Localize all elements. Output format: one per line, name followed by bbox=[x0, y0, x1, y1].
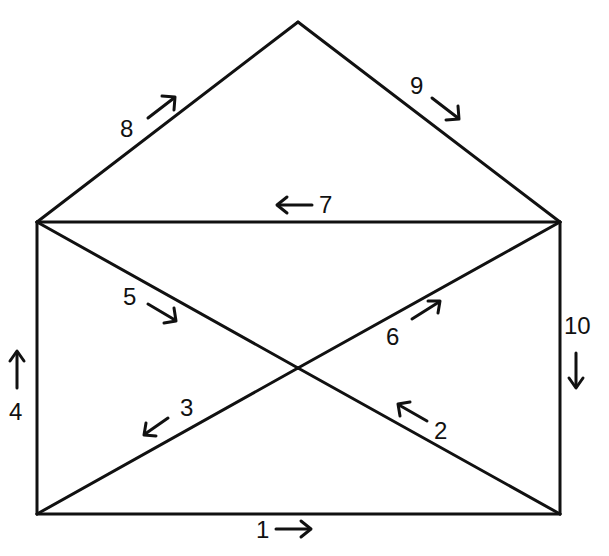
arrows bbox=[10, 96, 583, 537]
edges bbox=[37, 22, 560, 514]
edge-5-diagonal-tl-center bbox=[37, 222, 298, 368]
edge-6-diagonal-center-tr bbox=[298, 222, 560, 368]
arrow-up-left-icon bbox=[398, 402, 427, 421]
label-step-2: 2 bbox=[434, 417, 447, 444]
label-step-9: 9 bbox=[410, 72, 423, 99]
arrow-up-icon bbox=[10, 351, 24, 388]
edge-2-diagonal-br-center bbox=[298, 368, 560, 514]
arrow-down-icon bbox=[569, 353, 583, 388]
labels: 1 2 3 4 5 6 7 8 9 10 bbox=[9, 72, 591, 543]
label-step-1: 1 bbox=[256, 516, 269, 543]
label-step-4: 4 bbox=[9, 398, 22, 425]
arrow-right-icon bbox=[276, 521, 311, 537]
label-step-8: 8 bbox=[120, 115, 133, 142]
arrow-left-icon bbox=[277, 197, 312, 213]
label-step-7: 7 bbox=[319, 191, 332, 218]
arrow-down-right-icon bbox=[148, 304, 176, 323]
edge-8-roof-left bbox=[37, 22, 298, 222]
arrow-down-left-icon bbox=[144, 418, 168, 436]
edge-3-diagonal-center-bl bbox=[37, 368, 298, 514]
label-step-5: 5 bbox=[123, 283, 136, 310]
arrow-up-right-icon bbox=[148, 96, 175, 118]
envelope-path-diagram: 1 2 3 4 5 6 7 8 9 10 bbox=[0, 0, 609, 556]
label-step-10: 10 bbox=[564, 312, 591, 339]
label-step-3: 3 bbox=[180, 394, 193, 421]
arrow-down-right-icon bbox=[432, 98, 459, 120]
edge-9-roof-right bbox=[298, 22, 560, 222]
label-step-6: 6 bbox=[386, 323, 399, 350]
